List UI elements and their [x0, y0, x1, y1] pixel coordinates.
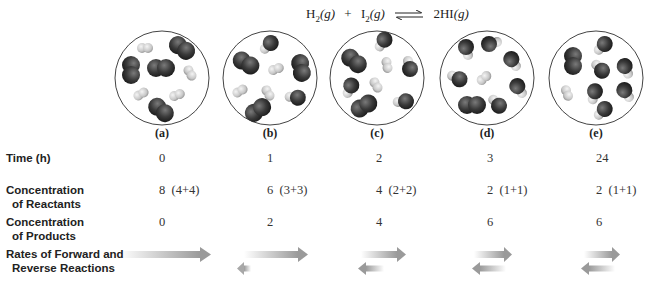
reactants-b: 6 (3+3)	[267, 183, 307, 198]
time-a: 0	[159, 151, 165, 166]
reactants-a: 8 (4+4)	[159, 183, 199, 198]
panel-d-flask	[440, 31, 534, 125]
reactants-e: 2 (1+1)	[596, 183, 636, 198]
panel-b-flask	[223, 31, 317, 125]
forward-arrow-e	[584, 247, 620, 262]
panel-label-e: (e)	[589, 126, 602, 141]
row-label-reactants: Concentrationof Reactants	[6, 183, 84, 211]
products-c: 4	[376, 215, 382, 230]
products-b: 2	[267, 215, 273, 230]
reverse-arrow-b	[237, 262, 251, 275]
time-d: 3	[487, 151, 493, 166]
row-label-time: Time (h)	[6, 151, 51, 165]
forward-arrow-b	[244, 247, 308, 262]
panel-label-b: (b)	[263, 126, 278, 141]
forward-arrow-a	[120, 247, 211, 262]
reverse-arrow-e	[581, 262, 615, 275]
row-label-products: Concentrationof Products	[6, 215, 84, 243]
time-e: 24	[596, 151, 609, 166]
reactants-d: 2 (1+1)	[487, 183, 527, 198]
time-c: 2	[376, 151, 382, 166]
forward-arrow-c	[361, 247, 406, 262]
rate-arrows	[120, 247, 620, 275]
reverse-arrow-c	[358, 262, 384, 275]
row-label-rates: Rates of Forward andReverse Reactions	[6, 247, 124, 275]
panel-label-c: (c)	[370, 126, 383, 141]
panel-e-flask	[549, 31, 643, 125]
panel-label-a: (a)	[155, 126, 169, 141]
products-a: 0	[159, 215, 165, 230]
products-d: 6	[487, 215, 493, 230]
time-b: 1	[267, 151, 273, 166]
reactants-c: 4 (2+2)	[376, 183, 416, 198]
products-e: 6	[596, 215, 602, 230]
reverse-arrow-d	[472, 262, 506, 275]
molecular-diagram	[0, 0, 645, 283]
panel-label-d: (d)	[480, 126, 495, 141]
forward-arrow-d	[474, 247, 512, 262]
panel-a-flask	[115, 31, 209, 126]
panel-c-flask	[330, 28, 424, 125]
